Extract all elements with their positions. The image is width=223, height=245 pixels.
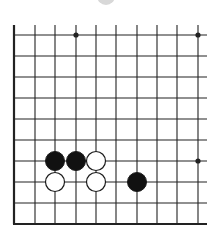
white-stone (87, 173, 106, 192)
go-board-diagram (0, 0, 223, 245)
grid-lines (13, 25, 207, 224)
top-artifact (97, 0, 115, 5)
black-stone (46, 152, 65, 171)
white-stone (46, 173, 65, 192)
black-stone (67, 152, 86, 171)
star-point (73, 32, 78, 37)
black-stone (128, 173, 147, 192)
star-point (195, 32, 200, 37)
star-point (195, 158, 200, 163)
white-stone (87, 152, 106, 171)
